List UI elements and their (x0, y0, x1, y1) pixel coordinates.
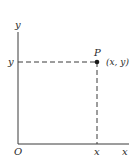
origin-label: O (14, 146, 22, 157)
coordinate-diagram: y y P (x, y) O x x (0, 0, 136, 163)
point-name-label: P (93, 47, 101, 58)
y-axis-label: y (14, 19, 21, 30)
x-axis-label: x (122, 146, 128, 157)
point-coords-label: (x, y) (106, 57, 129, 67)
x-tick-label: x (94, 146, 100, 157)
point-p (95, 60, 100, 65)
y-tick-label: y (7, 56, 14, 67)
